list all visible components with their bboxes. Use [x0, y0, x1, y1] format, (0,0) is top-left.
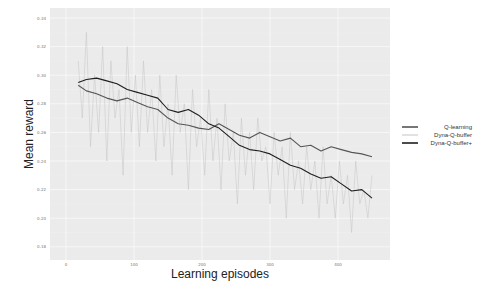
line-chart: 0.180.200.220.240.260.280.300.320.34 010… — [0, 0, 490, 293]
y-axis-ticks: 0.180.200.220.240.260.280.300.320.34 — [37, 16, 46, 250]
x-tick-label: 400 — [334, 262, 342, 267]
y-tick-label: 0.28 — [37, 101, 46, 106]
y-tick-label: 0.26 — [37, 130, 46, 135]
y-tick-label: 0.34 — [37, 16, 46, 21]
legend-label: Q-learning — [444, 124, 472, 130]
x-tick-label: 0 — [65, 262, 68, 267]
legend-label: Dyna-Q-buffer+ — [431, 140, 473, 146]
y-tick-label: 0.32 — [37, 44, 46, 49]
x-tick-label: 100 — [130, 262, 138, 267]
y-tick-label: 0.24 — [37, 159, 46, 164]
plot-background — [50, 8, 390, 260]
y-tick-label: 0.22 — [37, 187, 46, 192]
y-tick-label: 0.20 — [37, 216, 46, 221]
legend-label: Dyna-Q-buffer — [434, 132, 472, 138]
y-tick-label: 0.30 — [37, 73, 46, 78]
y-axis-title: Mean reward — [22, 99, 36, 169]
x-axis-title: Learning episodes — [171, 267, 269, 281]
legend: Q-learningDyna-Q-bufferDyna-Q-buffer+ — [402, 124, 472, 146]
y-tick-label: 0.18 — [37, 244, 46, 249]
